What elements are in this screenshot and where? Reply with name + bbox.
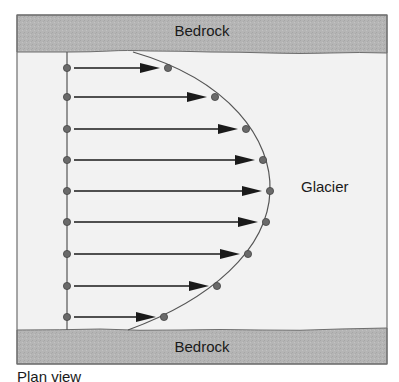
end-point-dot [259,156,266,163]
end-point-dot [213,282,220,289]
start-point-dot [63,93,70,100]
start-point-dot [63,218,70,225]
glacier-label: Glacier [301,178,349,195]
start-point-dot [63,282,70,289]
end-point-dot [262,218,269,225]
start-point-dot [63,125,70,132]
end-point-dot [244,250,251,257]
start-point-dot [63,187,70,194]
start-point-dot [63,250,70,257]
plan-view-label: Plan view [17,368,81,382]
bedrock-top-label: Bedrock [0,22,399,39]
end-point-dot [160,313,167,320]
start-point-dot [63,313,70,320]
start-point-dot [63,64,70,71]
start-point-dot [63,156,70,163]
end-point-dot [164,64,171,71]
end-point-dot [266,187,273,194]
bedrock-bottom-label: Bedrock [0,338,399,355]
end-point-dot [242,125,249,132]
end-point-dot [211,93,218,100]
